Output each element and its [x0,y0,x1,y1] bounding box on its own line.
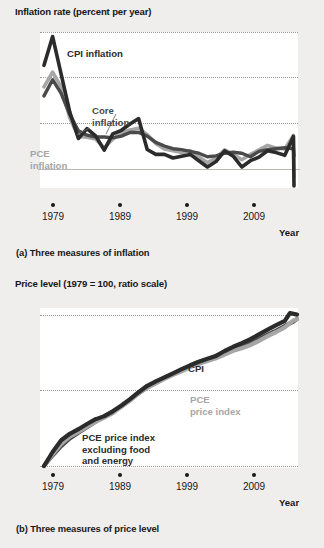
core-inflation-label: Core inflation [92,105,129,128]
cpi-label: CPI [188,363,204,375]
panel-b-xtick-1989: 1989 [109,481,131,492]
panel-b-xtick-1979: 1979 [42,481,64,492]
panel-a-xtick-dot-2009 [252,203,256,207]
panel-a-xtick-1989: 1989 [109,211,131,222]
pce-inflation-label: PCE inflation [30,148,67,171]
pce-inflation-label-line2: inflation [30,160,67,172]
core-inflation-label-line1: Core [92,105,129,117]
panel-a-xtick-2009: 2009 [243,211,265,222]
pce-core-label-line3: and energy [82,455,155,467]
panel-a-xtick-dot-1999 [185,203,189,207]
pce-core-label: PCE price index excluding food and energ… [82,432,155,467]
panel-b-x-axis-name: Year [279,497,299,508]
core-inflation-label-line2: inflation [92,117,129,129]
pce-price-index-label-line2: price index [190,406,241,418]
panel-b-caption: (b) Three measures of price level [16,523,159,534]
panel-b-xtick-dot-2009 [252,473,256,477]
panel-a-xtick-1979: 1979 [42,211,64,222]
panel-b-plot-area [40,308,298,468]
pce-price-index-label: PCE price index [190,394,241,417]
panel-b-xtick-1999: 1999 [176,481,198,492]
pce-core-label-line1: PCE price index [82,432,155,444]
panel-b-xtick-2009: 2009 [243,481,265,492]
panel-a-x-axis-name: Year [279,227,299,238]
panel-a-xtick-dot-1989 [118,203,122,207]
panel-a-xtick-dot-1979 [51,203,55,207]
figure-three-measures-of-inflation: Inflation rate (percent per year) 15 10 [0,0,324,548]
panel-a-inflation-rate: Inflation rate (percent per year) 15 10 [0,0,324,270]
panel-a-title: Inflation rate (percent per year) [15,6,151,17]
pce-core-label-line2: excluding food [82,444,155,456]
cpi-inflation-label: CPI inflation [67,48,123,60]
panel-b-xtick-dot-1979 [51,473,55,477]
panel-a-caption: (a) Three measures of inflation [16,247,149,258]
panel-b-xtick-dot-1999 [185,473,189,477]
panel-a-xtick-1999: 1999 [176,211,198,222]
pce-inflation-leader [77,128,89,135]
pce-inflation-label-line1: PCE [30,148,67,160]
panel-b-series-lines [40,308,298,468]
pce-price-index-label-line1: PCE [190,394,241,406]
panel-b-xtick-dot-1989 [118,473,122,477]
panel-b-title: Price level (1979 = 100, ratio scale) [15,278,167,289]
